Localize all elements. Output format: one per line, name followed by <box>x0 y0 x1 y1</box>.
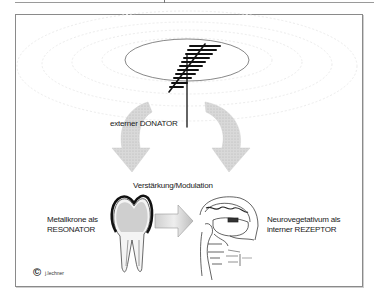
receptor-label: Neurovegetativum als interner REZEPTOR <box>267 215 340 235</box>
receptor-label-line2: interner REZEPTOR <box>267 225 340 235</box>
tooth-with-crown-icon <box>112 196 152 272</box>
donator-label: externer DONATOR <box>110 119 178 129</box>
curved-arrow-left <box>112 102 152 172</box>
right-arrow-icon <box>155 205 193 237</box>
diagram-canvas <box>0 0 374 300</box>
curved-arrow-right <box>205 102 250 172</box>
receptor-label-line1: Neurovegetativum als <box>267 215 340 225</box>
copyright-icon: © <box>33 267 41 278</box>
resonator-label: Metallkrone als RESONATOR <box>47 215 98 235</box>
resonator-label-line2: RESONATOR <box>47 225 98 235</box>
copyright-author: j.lechner <box>45 270 64 276</box>
amplification-label: Verstärkung/Modulation <box>133 181 213 191</box>
copyright-notice: © j.lechner <box>33 267 64 278</box>
brain-section-icon <box>200 197 258 280</box>
resonator-label-line1: Metallkrone als <box>47 215 98 225</box>
